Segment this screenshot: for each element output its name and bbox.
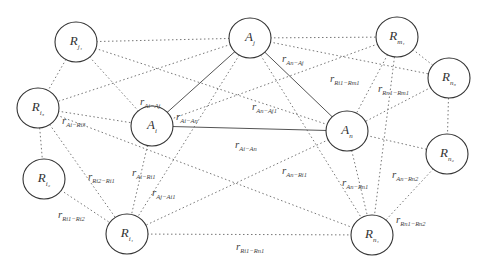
edge-label: rAn−Ri1: [282, 164, 307, 178]
edge-label: rRn1−Rn2: [396, 213, 426, 227]
node-label-ai: Ai: [147, 117, 157, 135]
node-label-aj: Aj: [245, 29, 255, 47]
edge-label: rRi1−Ri2: [58, 208, 85, 222]
edge-label: rAn−Rn1: [342, 176, 368, 190]
dotted-edge: [250, 37, 397, 38]
node-label-ri2: Ri₂: [38, 170, 50, 188]
node-label-rn1: Rn₁: [365, 226, 379, 244]
node-label-ri3: Ri₃: [32, 99, 44, 117]
edge-label: rAn−Aj1: [252, 100, 277, 114]
dotted-edge: [372, 37, 397, 235]
network-diagram: Rj₁AjRm₁Rn₃Ri₃AiAnRn₂Ri₂Ri₁Rn₁rAi−AjrAi−…: [0, 0, 487, 272]
dotted-edge: [127, 234, 372, 235]
node-label-rn3: Rn₃: [442, 69, 456, 87]
edge-label: rRi2−Ri1: [88, 170, 115, 184]
edge-label: rAi−An: [235, 138, 257, 152]
edge-label: rAi−Aj: [140, 95, 160, 109]
node-label-rn2: Rn₂: [440, 145, 454, 163]
edge-label: rAi−Ri1: [132, 166, 155, 180]
dotted-edge: [76, 38, 250, 42]
edge-label: rAi−An: [176, 110, 198, 124]
edge-label: rAn−Rn2: [392, 168, 418, 182]
edge-label: rAi−Ri3: [62, 114, 85, 128]
node-label-rj1: Rj₁: [70, 33, 82, 51]
node-label-rm1: Rm₁: [389, 28, 404, 46]
edge-label: rRi1−Rm1: [330, 72, 360, 86]
node-label-ri1: Ri₁: [121, 225, 133, 243]
node-label-an: An: [341, 122, 352, 140]
edge-label: rRn1−Rm1: [378, 82, 409, 96]
edge-label: rAj−Ai1: [152, 186, 175, 200]
edge-label: rRi1−Rn1: [236, 240, 264, 254]
edge-label: rAn−Aj: [282, 52, 304, 66]
solid-edge: [152, 126, 347, 131]
